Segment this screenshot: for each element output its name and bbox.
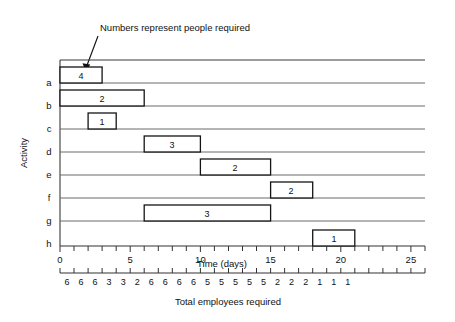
total-value-day-4: 3 — [107, 277, 112, 287]
x-tick-label-25: 25 — [406, 254, 417, 265]
gantt-bar-b: 2 — [60, 90, 144, 106]
total-value-day-5: 3 — [121, 277, 126, 287]
totals-axis — [60, 268, 425, 273]
gantt-bar-h-label: 1 — [331, 234, 336, 244]
total-value-day-7: 6 — [149, 277, 154, 287]
total-value-day-2: 6 — [78, 277, 83, 287]
total-value-day-6: 2 — [135, 277, 140, 287]
gantt-bar-d-label: 3 — [169, 140, 174, 150]
total-value-day-19: 1 — [317, 277, 322, 287]
total-value-day-9: 6 — [177, 277, 182, 287]
bottom-caption: Total employees required — [175, 296, 281, 307]
gantt-bar-f: 2 — [271, 182, 313, 198]
row-label-b: b — [46, 100, 51, 111]
x-tick-label-15: 15 — [265, 254, 276, 265]
total-value-day-12: 5 — [219, 277, 224, 287]
gantt-bar-e: 2 — [200, 159, 270, 175]
total-value-day-15: 5 — [261, 277, 266, 287]
gantt-bar-d: 3 — [144, 136, 200, 152]
time-axis-ticks — [60, 246, 425, 252]
total-value-day-17: 2 — [289, 277, 294, 287]
activity-bars: 4 2 1 3 2 — [60, 67, 355, 246]
row-label-group: a b c d e f g h — [46, 77, 52, 249]
row-label-a: a — [46, 77, 52, 88]
gantt-chart-figure: Numbers represent people required a b c — [0, 0, 455, 322]
total-value-day-11: 5 — [205, 277, 210, 287]
total-value-day-8: 6 — [163, 277, 168, 287]
x-tick-label-0: 0 — [57, 254, 62, 265]
gantt-bar-e-label: 2 — [232, 163, 237, 173]
total-value-day-10: 6 — [191, 277, 196, 287]
x-tick-label-5: 5 — [128, 254, 133, 265]
gantt-bar-g: 3 — [144, 205, 270, 221]
gantt-bar-c-label: 1 — [99, 117, 104, 127]
row-label-g: g — [46, 215, 51, 226]
total-value-day-14: 5 — [247, 277, 252, 287]
gantt-bar-c: 1 — [88, 113, 116, 129]
x-tick-label-20: 20 — [336, 254, 347, 265]
total-value-day-21: 1 — [345, 277, 350, 287]
gantt-bar-a-label: 4 — [78, 71, 83, 81]
total-value-day-18: 2 — [303, 277, 308, 287]
row-label-d: d — [46, 146, 51, 157]
row-label-c: c — [47, 123, 52, 134]
gantt-bar-b-label: 2 — [99, 94, 104, 104]
row-label-e: e — [46, 169, 51, 180]
row-label-f: f — [48, 192, 51, 203]
gantt-bar-g-label: 3 — [204, 209, 209, 219]
chart-canvas: Numbers represent people required a b c — [0, 0, 455, 322]
gantt-bar-a: 4 — [60, 67, 102, 83]
y-axis-title: Activity — [18, 138, 29, 168]
x-axis-title: Time (days) — [197, 258, 247, 269]
total-value-day-16: 2 — [275, 277, 280, 287]
row-label-h: h — [46, 238, 51, 249]
gantt-bar-f-label: 2 — [288, 186, 293, 196]
total-value-day-13: 5 — [233, 277, 238, 287]
total-value-day-20: 1 — [331, 277, 336, 287]
totals-values: 6 6 6 3 3 2 6 6 6 6 5 5 5 5 5 2 2 2 1 1 … — [64, 277, 350, 287]
annotation-label: Numbers represent people required — [100, 22, 250, 33]
total-value-day-1: 6 — [64, 277, 69, 287]
total-value-day-3: 6 — [93, 277, 98, 287]
gantt-bar-h: 1 — [313, 230, 355, 246]
